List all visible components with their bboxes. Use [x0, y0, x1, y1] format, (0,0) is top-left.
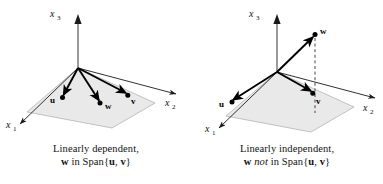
vector-label-w: w [320, 26, 327, 36]
vector-label-u: u [50, 95, 55, 105]
caption-not: not [251, 156, 267, 167]
vector-label-v: v [316, 96, 321, 106]
axis-label-x2-sub: 2 [172, 103, 176, 111]
axis-label-x2: x 2 [164, 97, 176, 111]
axis-label-x3-base: x [248, 8, 254, 19]
caption-brace-close: } [126, 156, 131, 167]
vector-v-endpoint [310, 91, 315, 96]
caption-line-2: w in Span{u, v} [0, 155, 192, 168]
caption-linearly-dependent: Linearly dependent, w in Span{u, v} [0, 142, 192, 168]
axis-label-x3-sub: 3 [57, 14, 61, 22]
caption-brace-close: } [325, 156, 330, 167]
axis-label-x1-base: x [204, 123, 210, 134]
span-plane [226, 72, 354, 132]
axis-label-x1-sub: 1 [13, 125, 17, 133]
vector-u-endpoint [60, 95, 65, 100]
axis-label-x3: x 3 [248, 8, 260, 22]
axis-label-x3-sub: 3 [256, 14, 260, 22]
caption-linearly-independent: Linearly independent, w not in Span{u, v… [191, 142, 383, 168]
vector-w-endpoint [98, 101, 103, 106]
vector-label-v: v [131, 96, 136, 106]
vector-label-u: u [219, 99, 224, 109]
axis-label-x1: x 1 [204, 123, 216, 137]
axis-label-x1-base: x [5, 119, 11, 130]
caption-w: w [61, 156, 69, 167]
axis-label-x2-sub: 2 [370, 108, 374, 116]
axis-label-x2: x 2 [362, 102, 374, 116]
axis-x3-arrowhead [74, 14, 81, 24]
axis-label-x3: x 3 [49, 8, 61, 22]
caption-line-2: w not in Span{u, v} [191, 155, 383, 168]
vector-v-endpoint [125, 93, 130, 98]
axis-label-x1-sub: 1 [212, 129, 216, 137]
vector-w-endpoint [313, 32, 318, 37]
span-plane [27, 68, 155, 128]
vector-span-figure: x 3 x 2 x 1 u w v Linearly dependent, w … [0, 0, 383, 184]
diagram-linearly-dependent: x 3 x 2 x 1 u w v [0, 0, 192, 140]
axis-label-x2-base: x [362, 102, 368, 113]
caption-line-1: Linearly dependent, [0, 142, 192, 155]
caption-in-span: in Span{ [268, 156, 308, 167]
axis-label-x1: x 1 [5, 119, 17, 133]
panel-linearly-dependent: x 3 x 2 x 1 u w v Linearly dependent, w … [0, 0, 192, 184]
caption-in-span: in Span{ [69, 156, 109, 167]
axis-label-x2-base: x [164, 97, 170, 108]
caption-line-1: Linearly independent, [191, 142, 383, 155]
axis-x3-arrowhead [273, 14, 280, 24]
axis-label-x3-base: x [49, 8, 55, 19]
vector-w [277, 37, 313, 72]
diagram-linearly-independent: x 3 x 2 x 1 u w v [191, 0, 383, 140]
vector-label-w: w [105, 101, 112, 111]
panel-linearly-independent: x 3 x 2 x 1 u w v Linearly independent, … [191, 0, 383, 184]
vector-u-endpoint [230, 100, 235, 105]
